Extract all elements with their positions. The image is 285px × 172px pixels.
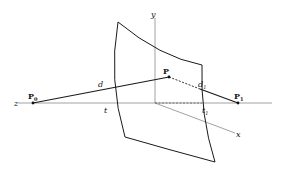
point-p0 xyxy=(32,102,35,105)
x-axis-label: x xyxy=(236,130,241,139)
label-d: d xyxy=(98,80,103,89)
point-p xyxy=(168,76,171,79)
x-axis xyxy=(155,103,235,133)
y-axis-label: y xyxy=(150,10,156,19)
label-p0: P0 xyxy=(28,91,38,102)
label-p1: P1 xyxy=(234,91,244,102)
ray-to-p1 xyxy=(200,89,238,103)
ray-p-dashed xyxy=(169,77,200,89)
diagram-canvas: y z x P0 P P1 d d1 t t1 xyxy=(0,0,285,172)
z-axis-label: z xyxy=(13,99,19,108)
label-d1: d1 xyxy=(198,80,206,90)
point-p1 xyxy=(237,102,240,105)
label-p: P xyxy=(163,66,169,76)
label-t: t xyxy=(104,106,108,115)
surface-patch xyxy=(114,22,215,162)
label-t1: t1 xyxy=(202,106,208,116)
